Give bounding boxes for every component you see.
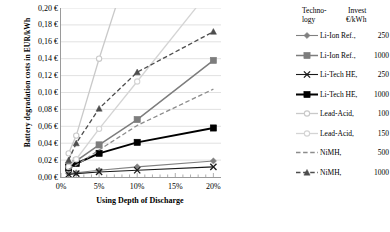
legend-item-invest-value: 250	[296, 69, 389, 80]
y-axis-tick-label: 0,06€	[16, 123, 58, 131]
legend-item[interactable]: Li-Ion Ref.,1000	[296, 48, 390, 68]
legend-item[interactable]: Li-Tech HE,250	[296, 67, 390, 87]
y-axis-tick-label: 0,18€	[16, 21, 58, 29]
series-marker	[96, 142, 102, 148]
legend-item[interactable]: Lead-Acid,100	[296, 106, 390, 126]
plot-svg	[61, 8, 221, 177]
legend-item[interactable]: NiMH,1000	[296, 165, 390, 185]
legend-header: Techno- logy Invest €/kWh	[296, 6, 390, 28]
series-marker	[210, 158, 216, 164]
series-marker	[210, 29, 216, 35]
y-axis-tick-labels: 0,00€0,02€0,04€0,06€0,08€0,10€0,12€0,14€…	[16, 8, 58, 178]
legend-header-invest-line2: €/kWh	[346, 15, 366, 24]
series-marker	[134, 139, 140, 145]
y-axis-tick-label: 0,04€	[16, 140, 58, 148]
series-marker	[210, 57, 216, 63]
legend-item-invest-value: 500	[296, 147, 389, 158]
series-marker	[96, 126, 101, 131]
y-axis-tick-label: 0,02€	[16, 157, 58, 165]
series-marker	[134, 116, 140, 122]
plot-area	[60, 8, 221, 178]
y-axis-tick-label: 0,00€	[16, 174, 58, 182]
x-axis-tick-label: 5%	[94, 182, 105, 192]
legend-header-invest-line1: Invest	[348, 6, 366, 15]
series-marker	[134, 164, 140, 170]
legend-item-invest-value: 1000	[296, 50, 389, 61]
legend-item[interactable]: Lead-Acid,150	[296, 126, 390, 146]
y-axis-tick-label: 0,12€	[16, 72, 58, 80]
series-marker	[134, 69, 140, 75]
series-line	[69, 128, 214, 168]
legend-header-technology-line2: logy	[302, 15, 315, 24]
series-marker	[135, 79, 140, 84]
y-axis-tick-label: 0,20€	[16, 5, 58, 13]
legend-item[interactable]: NiMH,500	[296, 145, 390, 165]
legend-header-technology-line1: Techno-	[302, 6, 326, 15]
series-marker	[74, 157, 79, 162]
y-axis-tick-label: 0,08€	[16, 106, 58, 114]
legend-item-invest-value: 1000	[296, 167, 389, 178]
series-marker	[210, 125, 216, 131]
legend-item[interactable]: Li-Ion Ref.,250	[296, 28, 390, 48]
legend: Techno- logy Invest €/kWh Li-Ion Ref.,25…	[296, 6, 390, 206]
legend-item[interactable]: Li-Tech HE,1000	[296, 87, 390, 107]
legend-rows: Li-Ion Ref.,250Li-Ion Ref.,1000Li-Tech H…	[296, 28, 390, 184]
y-axis-tick-label: 0,14€	[16, 55, 58, 63]
legend-item-invest-value: 100	[296, 108, 389, 119]
series-marker	[66, 151, 71, 156]
x-axis-tick-label: 20%	[206, 182, 221, 192]
x-axis-tick-labels: 0%5%10%15%20%	[60, 182, 221, 194]
y-axis-tick-label: 0,16€	[16, 38, 58, 46]
series-marker	[96, 56, 101, 61]
x-axis-title: Using Depth of Discharge	[45, 196, 235, 205]
chart-figure: Battery degradation costs in EUR/kWh 0,0…	[0, 0, 390, 232]
legend-item-invest-value: 1000	[296, 89, 389, 100]
legend-item-invest-value: 150	[296, 128, 389, 139]
x-axis-tick-label: 0%	[56, 182, 67, 192]
series-marker	[96, 105, 102, 111]
legend-item-invest-value: 250	[296, 30, 389, 41]
series-marker	[74, 133, 79, 138]
x-axis-tick-label: 10%	[130, 182, 145, 192]
x-axis-tick-label: 15%	[168, 182, 183, 192]
y-axis-tick-label: 0,10€	[16, 89, 58, 97]
series-marker	[96, 150, 102, 156]
